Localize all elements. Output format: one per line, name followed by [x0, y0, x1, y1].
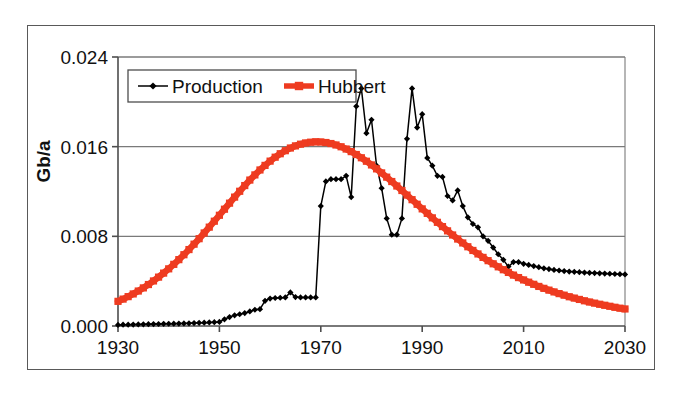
x-tick-label-1: 1950: [198, 337, 240, 358]
data-point-marker: [597, 270, 603, 276]
data-point-marker: [277, 295, 283, 301]
data-point-marker: [460, 203, 466, 209]
data-point-marker: [607, 271, 613, 277]
y-axis-title: Gb/a: [33, 140, 54, 183]
data-point-marker: [515, 259, 521, 265]
data-point-marker: [612, 271, 618, 277]
data-point-marker: [536, 264, 542, 270]
data-point-marker: [368, 117, 374, 123]
data-point-marker: [295, 82, 303, 90]
data-point-marker: [591, 270, 597, 276]
data-point-marker: [237, 311, 243, 317]
data-point-marker: [348, 194, 354, 200]
legend-label-production: Production: [172, 76, 263, 97]
data-point-marker: [379, 185, 385, 191]
data-point-marker: [318, 203, 324, 209]
data-point-marker: [414, 125, 420, 131]
x-tick-label-5: 2030: [604, 337, 646, 358]
data-point-marker: [242, 310, 248, 316]
y-tick-label-3: 0.024: [60, 47, 108, 68]
data-point-marker: [531, 263, 537, 269]
x-tick-label-3: 1990: [401, 337, 443, 358]
y-tick-label-0: 0.000: [60, 316, 108, 337]
data-point-marker: [576, 269, 582, 275]
series-layer: [114, 85, 628, 328]
data-point-marker: [363, 130, 369, 136]
data-point-marker: [434, 173, 440, 179]
y-tick-label-2: 0.016: [60, 137, 108, 158]
data-point-marker: [561, 268, 567, 274]
hubbert-production-chart: 0.0000.0080.0160.02419301950197019902010…: [0, 0, 681, 394]
data-point-marker: [621, 305, 628, 312]
data-point-marker: [521, 261, 527, 267]
data-point-marker: [272, 295, 278, 301]
x-tick-label-0: 1930: [97, 337, 139, 358]
data-point-marker: [526, 262, 532, 268]
data-point-marker: [409, 85, 415, 91]
legend-label-hubbert: Hubbert: [318, 76, 386, 97]
data-point-marker: [419, 111, 425, 117]
data-point-marker: [551, 267, 557, 273]
data-point-marker: [196, 320, 202, 326]
data-point-marker: [399, 215, 405, 221]
data-point-marker: [201, 320, 207, 326]
data-point-marker: [455, 187, 461, 193]
x-tick-label-4: 2010: [502, 337, 544, 358]
data-point-marker: [206, 319, 212, 325]
data-point-marker: [247, 308, 253, 314]
data-point-marker: [571, 269, 577, 275]
chart-figure: 0.0000.0080.0160.02419301950197019902010…: [0, 0, 681, 394]
data-point-marker: [566, 268, 572, 274]
x-tick-label-2: 1970: [300, 337, 342, 358]
data-point-marker: [602, 270, 608, 276]
data-point-marker: [439, 174, 445, 180]
data-point-marker: [581, 269, 587, 275]
series-hubbert: [114, 138, 628, 312]
chart-legend: ProductionHubbert: [128, 70, 386, 102]
y-tick-label-1: 0.008: [60, 226, 108, 247]
data-point-marker: [586, 270, 592, 276]
data-point-marker: [353, 103, 359, 109]
data-point-marker: [115, 322, 121, 328]
data-point-marker: [313, 294, 319, 300]
data-point-marker: [216, 319, 222, 325]
data-point-marker: [252, 307, 258, 313]
data-point-marker: [211, 319, 217, 325]
data-point-marker: [622, 271, 628, 277]
data-point-marker: [541, 265, 547, 271]
data-point-marker: [546, 266, 552, 272]
data-point-marker: [617, 271, 623, 277]
data-point-marker: [556, 267, 562, 273]
data-point-marker: [232, 312, 238, 318]
data-point-marker: [384, 215, 390, 221]
data-point-marker: [404, 136, 410, 142]
